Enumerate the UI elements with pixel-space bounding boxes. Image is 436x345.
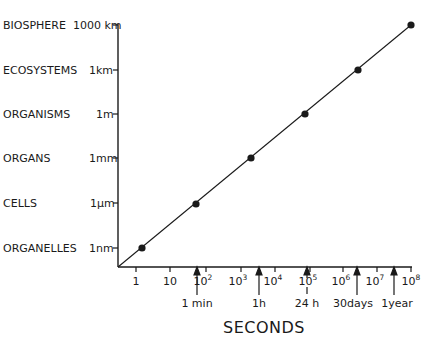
y-size-1000km: 1000 km: [73, 19, 122, 32]
data-point-cells: [192, 200, 199, 207]
data-point-biosphere: [407, 21, 414, 28]
y-category-organs: ORGANS: [3, 152, 51, 165]
x-tick-1: 1: [133, 275, 140, 288]
y-category-cells: CELLS: [3, 197, 37, 210]
y-category-organisms: ORGANISMS: [3, 108, 70, 121]
x-axis-title: SECONDS: [223, 318, 305, 337]
y-size-1um: 1µm: [90, 197, 115, 210]
chart: BIOSPHERE 1000 km ECOSYSTEMS 1km ORGANIS…: [0, 0, 436, 345]
y-size-1nm: 1nm: [89, 242, 114, 255]
x-tick-10e3: 103: [229, 273, 248, 288]
data-line: [118, 25, 411, 267]
y-size-1km: 1km: [89, 64, 113, 77]
y-category-organelles: ORGANELLES: [3, 242, 77, 255]
time-label-30days: 30days: [333, 297, 373, 310]
x-tick-10e6: 106: [332, 273, 351, 288]
data-point-organisms: [301, 110, 308, 117]
time-label-24h: 24 h: [295, 297, 319, 310]
y-size-1mm: 1mm: [89, 152, 117, 165]
y-category-ecosystems: ECOSYSTEMS: [3, 64, 77, 77]
time-label-1min: 1 min: [181, 297, 212, 310]
x-tick-10: 10: [163, 275, 177, 288]
arrow-1h-icon: [256, 267, 262, 275]
y-size-1m: 1m: [96, 108, 114, 121]
x-tick-10e8: 108: [402, 273, 421, 288]
y-ticks: [113, 25, 118, 248]
data-point-organs: [247, 154, 254, 161]
time-label-1h: 1h: [252, 297, 266, 310]
arrow-24h-icon: [304, 267, 310, 275]
x-tick-10e4: 104: [264, 273, 283, 288]
y-category-biosphere: BIOSPHERE: [3, 19, 66, 32]
arrow-1min-icon: [194, 267, 200, 275]
data-point-organelles: [138, 244, 145, 251]
time-label-1year: 1year: [381, 297, 413, 310]
x-ticks: [136, 267, 411, 272]
arrow-30days-icon: [354, 267, 360, 275]
data-point-ecosystems: [354, 66, 361, 73]
x-tick-10e7: 107: [366, 273, 385, 288]
arrow-1year-icon: [391, 267, 397, 275]
